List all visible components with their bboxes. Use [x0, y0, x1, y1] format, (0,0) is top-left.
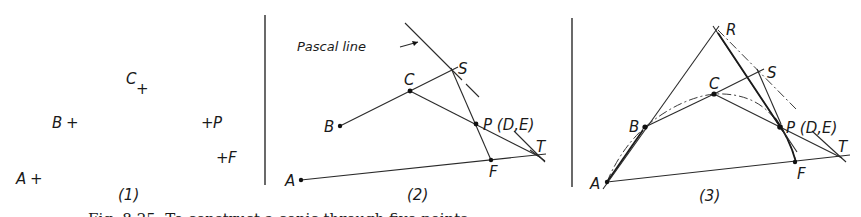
point-label-b: B — [52, 114, 62, 132]
point-label-c: C — [404, 71, 415, 89]
panel-label-2: (2) — [407, 186, 428, 204]
plus-marker-f: + — [216, 149, 229, 167]
point-label-p: P (D,E) — [786, 119, 837, 137]
line-at — [607, 155, 850, 182]
point-a — [299, 178, 303, 182]
plus-marker-p: + — [201, 114, 214, 132]
line-cs — [410, 67, 458, 91]
point-label-f: F — [228, 149, 237, 167]
plus-marker-a: + — [30, 170, 43, 188]
point-label-s: S — [458, 60, 468, 78]
point-label-r: R — [726, 21, 736, 39]
point-label-a: A — [589, 175, 600, 193]
point-label-a: A — [284, 172, 295, 190]
tangent-at-p — [718, 33, 783, 131]
point-c — [408, 89, 413, 94]
point-label-b: B — [629, 118, 639, 136]
point-label-p: P — [213, 114, 223, 132]
plus-marker-c: + — [136, 80, 149, 98]
point-label-t: T — [536, 138, 547, 156]
conic-segment — [607, 130, 643, 182]
pascal-construction-figure: C + B + + P + F A + (1) Pascal line — [0, 0, 861, 217]
line-ar — [603, 26, 719, 189]
panel-2: Pascal line A B C S P (D,E) T F (2) — [284, 23, 547, 204]
panel-1: C + B + + P + F A + (1) — [15, 70, 237, 204]
point-label-c: C — [709, 75, 720, 93]
point-label-b: B — [324, 118, 334, 136]
point-b — [642, 124, 647, 129]
panel-label-3: (3) — [699, 187, 720, 205]
point-label-f: F — [797, 165, 806, 183]
point-label-s: S — [767, 64, 777, 82]
point-label-p: P (D,E) — [483, 116, 534, 134]
pascal-line-label: Pascal line — [297, 39, 366, 54]
pascal-line-segment — [466, 84, 479, 97]
line-bc — [645, 94, 714, 127]
point-p — [474, 122, 479, 127]
point-label-f: F — [489, 163, 498, 181]
point-f — [793, 160, 797, 164]
point-p — [777, 124, 783, 130]
point-label-a: A — [15, 170, 26, 188]
panel-3: A B C R S P (D,E) T F (3) — [589, 21, 850, 205]
panel-label-1: (1) — [118, 186, 139, 204]
plus-marker-b: + — [66, 114, 79, 132]
figure-caption: Fig. 8.25. To construct a conic through … — [88, 210, 482, 217]
point-a — [605, 180, 609, 184]
line-sf — [451, 68, 491, 160]
point-f — [489, 158, 493, 162]
line-at — [301, 154, 546, 180]
line-bc — [340, 91, 410, 126]
point-b — [338, 124, 342, 128]
point-label-t: T — [838, 138, 849, 156]
